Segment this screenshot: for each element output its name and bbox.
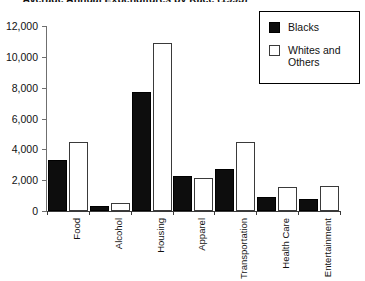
bar <box>320 186 339 211</box>
x-tick-mark <box>173 211 174 215</box>
x-tick-label: Apparel <box>197 218 207 251</box>
x-tick-mark <box>47 211 48 215</box>
bar <box>278 187 297 211</box>
x-tick-mark <box>340 211 341 215</box>
bar <box>111 203 130 211</box>
x-tick-label: Housing <box>156 218 166 253</box>
x-tick-label: Transportation <box>239 218 249 279</box>
y-tick-label: 12,000 <box>6 21 38 31</box>
bar <box>236 142 255 211</box>
y-tick-label: 10,000 <box>6 52 38 62</box>
x-tick-mark <box>131 211 132 215</box>
bar-chart: Average Annual Expenditures by Race (199… <box>0 0 365 281</box>
bar <box>69 142 88 211</box>
x-tick-mark <box>214 211 215 215</box>
legend-label-blacks: Blacks <box>288 21 354 33</box>
x-tick-label: Entertainment <box>323 218 333 277</box>
legend-label-whites-and-others: Whites and Others <box>288 44 354 68</box>
x-tick-label: Alcohol <box>114 218 124 249</box>
bar <box>299 199 318 211</box>
y-tick-label: 4,000 <box>12 144 38 154</box>
empty-square-icon <box>269 45 280 56</box>
x-tick-mark <box>256 211 257 215</box>
filled-square-icon <box>269 22 280 33</box>
bar <box>215 169 234 211</box>
x-tick-label: Food <box>72 218 82 240</box>
y-tick-mark <box>42 57 47 58</box>
x-axis-line <box>46 211 340 212</box>
bar <box>132 92 151 211</box>
bar <box>90 206 109 211</box>
chart-legend: Blacks Whites and Others <box>259 11 360 84</box>
y-tick-label: 2,000 <box>12 175 38 185</box>
chart-title: Average Annual Expenditures by Race (199… <box>0 0 270 2</box>
y-tick-mark <box>42 119 47 120</box>
bar <box>194 178 213 211</box>
bar <box>257 197 276 211</box>
bar <box>173 176 192 211</box>
y-tick-mark <box>42 88 47 89</box>
y-tick-mark <box>42 149 47 150</box>
x-tick-label: Health Care <box>281 218 291 269</box>
y-tick-mark <box>42 26 47 27</box>
legend-item-whites-and-others: Whites and Others <box>269 44 354 68</box>
y-tick-mark <box>42 180 47 181</box>
legend-item-blacks: Blacks <box>269 21 354 33</box>
x-tick-mark <box>89 211 90 215</box>
x-tick-mark <box>298 211 299 215</box>
bar <box>48 160 67 211</box>
y-tick-label: 8,000 <box>12 83 38 93</box>
y-tick-label: 0 <box>32 206 38 216</box>
bar <box>153 43 172 211</box>
y-tick-label: 6,000 <box>12 114 38 124</box>
